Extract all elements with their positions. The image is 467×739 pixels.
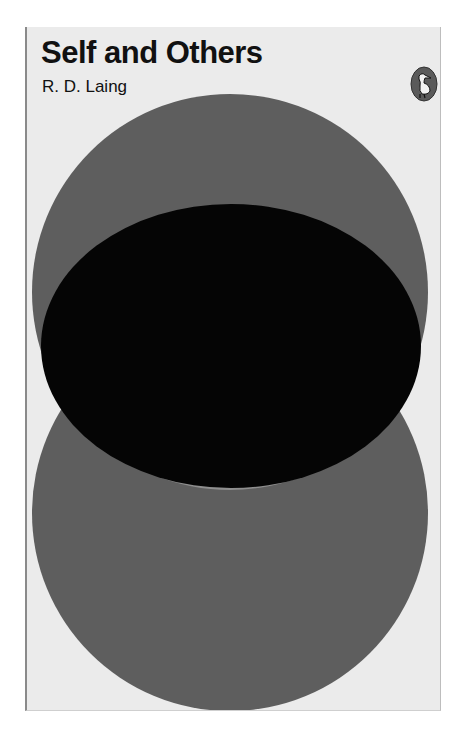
book-cover: Self and Others R. D. Laing (25, 27, 441, 711)
overlapping-circles-artwork (27, 27, 441, 711)
black-lens (41, 204, 421, 488)
book-author: R. D. Laing (42, 77, 127, 97)
book-title: Self and Others (41, 35, 263, 71)
pelican-icon (410, 66, 438, 102)
